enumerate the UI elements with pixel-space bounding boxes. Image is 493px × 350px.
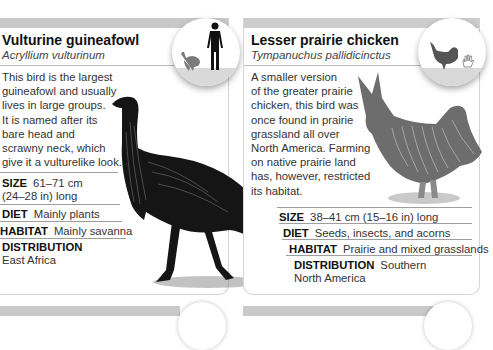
fact-distribution-continued: North America xyxy=(294,271,366,285)
next-card-scale-badge xyxy=(178,302,226,350)
next-card-header-bar xyxy=(243,306,433,316)
species-title: Vulturine guineafowl xyxy=(2,32,139,48)
guineafowl-silhouette-icon xyxy=(178,46,204,72)
fact-divider xyxy=(0,221,122,222)
fact-distribution: DISTRIBUTION xyxy=(2,240,88,254)
lesser-prairie-chicken-illustration xyxy=(352,68,492,208)
species-description: This bird is the largest guineafowl and … xyxy=(2,70,122,169)
next-card-header-bar xyxy=(0,306,180,316)
fact-size: SIZE61–71 cm xyxy=(2,176,83,190)
size-comparison-badge xyxy=(172,18,240,86)
fact-divider xyxy=(286,255,472,256)
species-latin-name: Acryllium vulturinum xyxy=(2,49,105,61)
fact-divider xyxy=(282,239,472,240)
human-silhouette-icon xyxy=(206,22,224,72)
fact-habitat: HABITATPrairie and mixed grasslands xyxy=(289,242,489,256)
fact-diet: DIETSeeds, insects, and acorns xyxy=(283,226,450,240)
fact-diet: DIETMainly plants xyxy=(2,207,100,221)
fact-distribution-value: East Africa xyxy=(2,253,56,267)
fact-size-continued: (24–28 in) long xyxy=(2,189,77,203)
fact-divider xyxy=(279,223,472,224)
species-latin-name: Tympanuchus pallidicinctus xyxy=(251,49,391,61)
fact-divider xyxy=(0,204,120,205)
species-title: Lesser prairie chicken xyxy=(251,32,399,48)
fact-divider xyxy=(0,172,118,173)
hand-icon xyxy=(461,54,475,68)
next-card-scale-badge xyxy=(424,302,472,350)
prairie-chicken-silhouette-icon xyxy=(428,38,462,72)
fact-size: SIZE38–41 cm (15–16 in) long xyxy=(279,210,438,224)
fact-distribution: DISTRIBUTIONSouthern xyxy=(294,258,426,272)
